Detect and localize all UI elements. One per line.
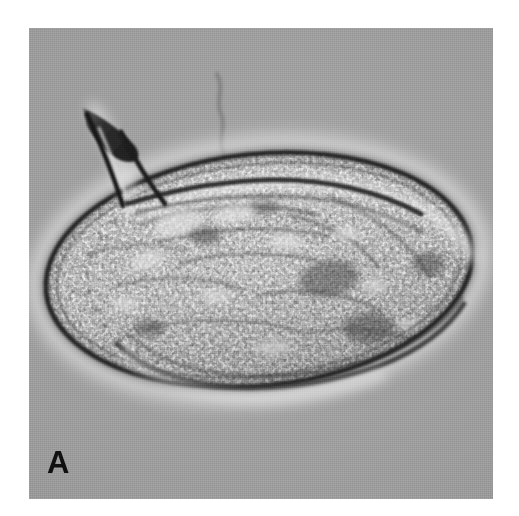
panel-label-a: A	[47, 447, 69, 478]
organism-rendering	[29, 28, 493, 499]
figure-root: A	[0, 0, 519, 516]
micrograph-image	[29, 28, 493, 499]
